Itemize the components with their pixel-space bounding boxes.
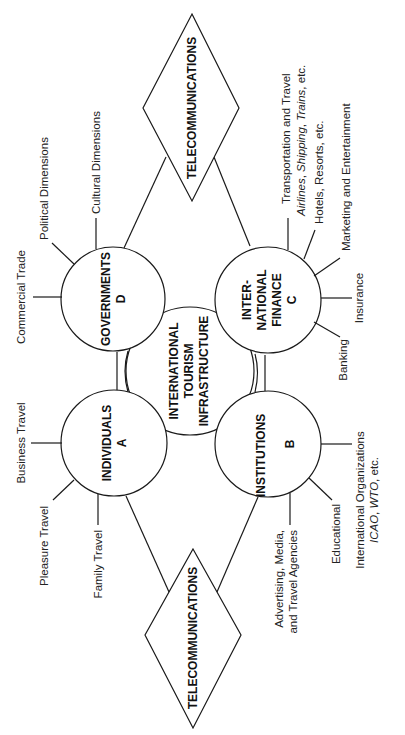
label-pleasure-travel: Pleasure Travel [38, 506, 50, 586]
institutions-circle [215, 391, 321, 497]
center-label-line1: INTERNATIONAL [167, 322, 181, 419]
individuals-label-title: INDIVIDUALS [100, 405, 114, 482]
label-educational: Educational [330, 504, 342, 564]
finance-label-line2: NATIONAL [255, 269, 269, 330]
label-cultural-dimensions: Cultural Dimensions [90, 111, 102, 214]
spoke-line-banking [314, 322, 340, 337]
label-transportation-line1: Transportation and Travel [280, 73, 292, 204]
label-marketing: Marketing and Entertainment [340, 103, 352, 251]
spoke-line-hotels [304, 230, 315, 259]
label-commercial-trade: Commercial Trade [15, 250, 27, 344]
italic-shipping: Shipping [295, 127, 307, 172]
label-transportation-line2: Airlines, Shipping, Trains, etc. [295, 65, 307, 217]
center-label-line2: TOURISM [182, 343, 196, 398]
label-intl-organizations-line1: International Organizations [354, 431, 366, 569]
sep-etc: , etc. [368, 457, 380, 482]
tourism-infrastructure-diagram: INTERNATIONAL TOURISM INFRASTRUCTURE GOV… [0, 0, 405, 735]
italic-trains: Trains [295, 89, 307, 120]
bottom-diamond-label: TELECOMMUNICATIONS [186, 567, 200, 709]
label-hotels: Hotels, Resorts, etc. [313, 120, 325, 224]
connector-top-diamond-finance [214, 157, 250, 246]
label-intl-organizations-line2: ICAO, WTO, etc. [368, 457, 380, 543]
institutions-label-title: INSTITUTIONS [254, 414, 268, 497]
top-diamond-label: TELECOMMUNICATIONS [185, 37, 199, 179]
individuals-label-letter: A [115, 438, 129, 447]
governments-label-title: GOVERNMENTS [99, 252, 113, 346]
label-business-travel: Business Travel [15, 402, 27, 483]
spoke-line-political-dimensions [52, 243, 74, 264]
connector-bottom-diamond-individuals [126, 496, 169, 592]
spoke-line-pleasure-travel [53, 480, 74, 500]
italic-icao: ICAO [368, 515, 380, 543]
label-advertising-line2: and Travel Agencies [287, 530, 299, 634]
label-advertising-line1: Advertising, Media, [273, 530, 285, 628]
finance-label-letter: C [285, 295, 299, 304]
connector-bottom-diamond-institutions [217, 497, 258, 592]
institutions-label-letter: B [283, 439, 297, 448]
individuals-circle [61, 390, 167, 496]
connector-top-diamond-governments [124, 157, 166, 248]
italic-airlines: Airlines [295, 178, 307, 217]
finance-label-line3: FINANCE [270, 273, 284, 326]
label-political-dimensions: Political Dimensions [38, 137, 50, 240]
label-family-travel: Family Travel [92, 530, 104, 598]
italic-wto: WTO [368, 482, 380, 509]
finance-label-line1: INTER- [240, 280, 254, 320]
sep-3: , etc. [295, 65, 307, 90]
spoke-line-marketing [314, 258, 340, 276]
center-label-line3: INFRASTRUCTURE [197, 316, 211, 427]
label-insurance: Insurance [353, 273, 365, 324]
governments-circle [61, 247, 165, 351]
label-banking: Banking [337, 339, 349, 381]
governments-label-letter: D [114, 294, 128, 303]
link-finance-institutions-inner [255, 354, 258, 392]
spoke-line-educational [309, 478, 332, 500]
